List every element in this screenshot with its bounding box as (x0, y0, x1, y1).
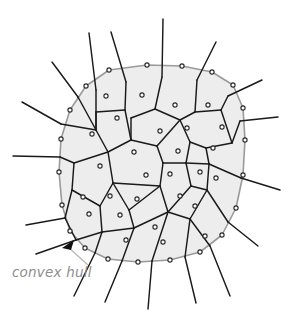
site-marker (158, 129, 162, 133)
site-marker (210, 70, 214, 74)
unbounded-ray (13, 156, 60, 157)
site-marker (173, 103, 177, 107)
site-marker (104, 94, 108, 98)
site-marker (180, 64, 184, 68)
voronoi-diagram-canvas: convex hull (0, 0, 292, 316)
site-marker (161, 240, 165, 244)
site-marker (98, 164, 102, 168)
site-marker (84, 84, 88, 88)
site-marker (107, 68, 111, 72)
site-marker (206, 103, 210, 107)
site-marker (211, 146, 215, 150)
site-marker (60, 203, 64, 207)
unbounded-ray (210, 246, 230, 296)
convex-hull-polygon (59, 65, 245, 262)
site-marker (124, 238, 128, 242)
site-marker (241, 106, 245, 110)
voronoi-figure: convex hull (0, 0, 292, 316)
site-marker (118, 213, 122, 217)
site-marker (81, 195, 85, 199)
site-marker (87, 212, 91, 216)
site-marker (68, 229, 72, 233)
cell-edge (125, 82, 126, 110)
unbounded-ray (241, 178, 280, 190)
convex-hull-annotation: convex hull (12, 240, 92, 280)
site-marker (145, 63, 149, 67)
site-marker (203, 234, 207, 238)
unbounded-ray (105, 261, 122, 302)
site-marker (193, 204, 197, 208)
site-marker (185, 126, 189, 130)
site-marker (198, 170, 202, 174)
unbounded-ray (148, 261, 152, 309)
site-marker (234, 206, 238, 210)
unbounded-ray (240, 117, 278, 121)
site-marker (220, 233, 224, 237)
site-marker (106, 257, 110, 261)
unbounded-ray (228, 222, 258, 246)
site-marker (178, 194, 182, 198)
unbounded-ray (26, 218, 65, 225)
convex-hull-region (59, 65, 245, 262)
site-marker (57, 170, 61, 174)
site-marker (90, 132, 94, 136)
site-marker (231, 83, 235, 87)
site-marker (198, 250, 202, 254)
site-marker (132, 150, 136, 154)
unbounded-ray (52, 62, 78, 97)
convex-hull-label: convex hull (12, 264, 92, 280)
site-marker (115, 116, 119, 120)
site-marker (83, 246, 87, 250)
site-marker (168, 172, 172, 176)
site-marker (68, 108, 72, 112)
site-marker (144, 173, 148, 177)
site-marker (241, 173, 245, 177)
unbounded-ray (162, 19, 163, 77)
unbounded-ray (22, 102, 61, 124)
site-marker (243, 138, 247, 142)
site-marker (176, 149, 180, 153)
site-marker (59, 137, 63, 141)
cell-edge (186, 163, 209, 164)
site-marker (214, 176, 218, 180)
site-marker (108, 194, 112, 198)
site-marker (153, 225, 157, 229)
site-marker (140, 93, 144, 97)
site-marker (168, 258, 172, 262)
unbounded-ray (185, 257, 196, 303)
site-marker (220, 125, 224, 129)
site-marker (135, 197, 139, 201)
site-marker (136, 260, 140, 264)
